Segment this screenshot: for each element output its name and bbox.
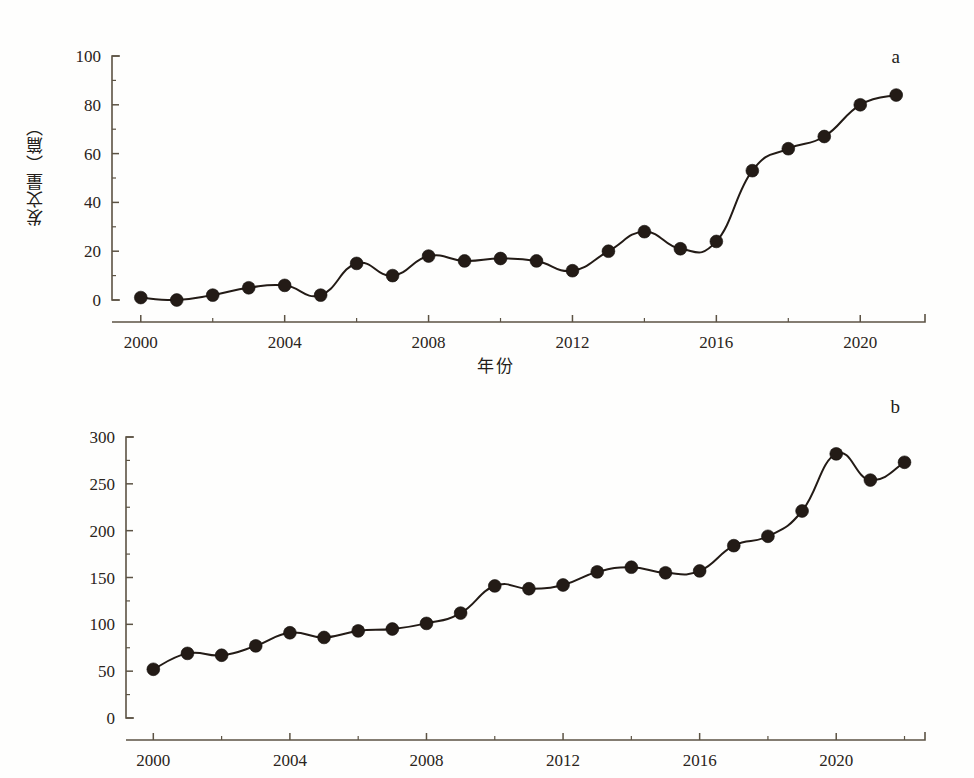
x-tick-label: 2012	[546, 751, 580, 770]
x-tick-label: 2008	[412, 333, 446, 352]
y-tick-label: 100	[76, 47, 102, 66]
data-point-marker: 2018: 62	[782, 142, 795, 155]
y-tick-label: 40	[84, 193, 101, 212]
x-axis-spine	[112, 314, 925, 322]
line-chart-b: 0501001502002503002000200420082012201620…	[0, 390, 974, 778]
data-point-marker: 2016: 157	[693, 565, 706, 578]
x-tick-label: 2004	[273, 751, 308, 770]
y-tick-label: 60	[84, 145, 101, 164]
data-point-marker: 2012: 142	[557, 579, 570, 592]
data-point-marker: 2011: 16	[530, 255, 543, 268]
data-point-marker: 2001: 69	[181, 647, 194, 660]
y-tick-label: 150	[90, 569, 116, 588]
y-tick-label: 20	[84, 242, 101, 261]
data-point-marker: 2003: 77	[249, 639, 262, 652]
x-tick-label: 2004	[268, 333, 303, 352]
data-point-marker: 2004: 91	[284, 626, 297, 639]
x-axis-spine	[126, 732, 925, 740]
y-axis-title-a: 发文量（篇）	[22, 118, 47, 226]
y-tick-label: 200	[90, 522, 116, 541]
data-point-marker: 2006: 93	[352, 624, 365, 637]
data-point-marker: 2022: 273	[898, 456, 911, 469]
x-tick-label: 2000	[136, 751, 170, 770]
data-point-marker: 2019: 67	[818, 130, 831, 143]
data-point-marker: 2020: 282	[830, 447, 843, 460]
data-point-marker: 2008: 101	[420, 617, 433, 630]
data-point-marker: 2018: 194	[762, 530, 775, 543]
data-point-marker: 2005: 86	[318, 631, 331, 644]
chart-panel-b: 0501001502002503002000200420082012201620…	[0, 390, 974, 778]
data-point-marker: 2009: 112	[454, 607, 467, 620]
data-point-marker: 2008: 18	[422, 250, 435, 263]
data-point-marker: 2000: 52	[147, 663, 160, 676]
data-point-marker: 2011: 138	[523, 582, 536, 595]
data-point-marker: 2005: 2	[314, 289, 327, 302]
panel-label-b: b	[891, 396, 901, 418]
y-tick-label: 80	[84, 96, 101, 115]
y-tick-label: 0	[107, 709, 116, 728]
data-point-marker: 2000: 1	[134, 291, 147, 304]
data-point-marker: 2002: 2	[206, 289, 219, 302]
y-tick-label: 300	[90, 428, 116, 447]
line-chart-a: 0204060801002000200420082012201620202000…	[0, 0, 974, 390]
panel-label-a: a	[892, 46, 900, 68]
data-point-marker: 2021: 84	[890, 89, 903, 102]
data-point-marker: 2002: 67	[215, 649, 228, 662]
chart-panel-a: 0204060801002000200420082012201620202000…	[0, 0, 974, 390]
data-series-line	[153, 453, 904, 669]
x-tick-label: 2000	[124, 333, 158, 352]
data-point-marker: 2020: 80	[854, 98, 867, 111]
data-point-marker: 2004: 6	[278, 279, 291, 292]
figure-page: 0204060801002000200420082012201620202000…	[0, 0, 974, 778]
data-point-marker: 2016: 24	[710, 235, 723, 248]
data-point-marker: 2009: 16	[458, 255, 471, 268]
data-point-marker: 2006: 15	[350, 257, 363, 270]
data-point-marker: 2010: 141	[488, 580, 501, 593]
data-point-marker: 2017: 184	[727, 539, 740, 552]
data-point-marker: 2012: 12	[566, 264, 579, 277]
x-tick-label: 2008	[409, 751, 443, 770]
data-point-marker: 2021: 254	[864, 474, 877, 487]
y-tick-label: 100	[90, 615, 116, 634]
data-point-marker: 2001: 0	[170, 294, 183, 307]
data-point-marker: 2013: 156	[591, 565, 604, 578]
data-point-marker: 2007: 10	[386, 269, 399, 282]
data-point-marker: 2014: 28	[638, 225, 651, 238]
data-point-marker: 2003: 5	[242, 281, 255, 294]
x-tick-label: 2020	[843, 333, 877, 352]
x-tick-label: 2012	[555, 333, 589, 352]
x-axis-title-a: 年份	[477, 352, 515, 377]
data-point-marker: 2015: 21	[674, 242, 687, 255]
y-tick-label: 0	[93, 291, 102, 310]
data-point-marker: 2014: 161	[625, 561, 638, 574]
data-point-marker: 2017: 53	[746, 164, 759, 177]
data-series-line	[141, 95, 896, 300]
data-point-marker: 2007: 95	[386, 623, 399, 636]
data-point-marker: 2019: 221	[796, 505, 809, 518]
y-tick-label: 50	[98, 662, 115, 681]
x-tick-label: 2020	[819, 751, 853, 770]
data-point-marker: 2010: 17	[494, 252, 507, 265]
data-point-marker: 2015: 155	[659, 566, 672, 579]
x-tick-label: 2016	[683, 751, 717, 770]
data-point-marker: 2013: 20	[602, 245, 615, 258]
y-tick-label: 250	[90, 475, 116, 494]
x-tick-label: 2016	[699, 333, 733, 352]
